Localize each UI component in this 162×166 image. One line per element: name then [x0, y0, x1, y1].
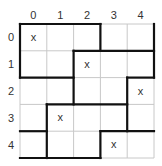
grid-cell-r1-c0[interactable]	[20, 51, 47, 78]
grid-cell-r3-c0[interactable]	[20, 104, 47, 131]
grid-cell-r2-c0[interactable]	[20, 78, 47, 105]
row-label: 0	[8, 31, 14, 43]
x-mark: x	[57, 111, 63, 123]
grid-cell-r1-c1[interactable]	[47, 51, 74, 78]
grid-cell-r4-c1[interactable]	[47, 131, 74, 158]
x-mark: x	[138, 85, 144, 97]
grid-cell-r4-c4[interactable]	[127, 131, 154, 158]
grid-cell-r0-c1[interactable]	[47, 24, 74, 51]
column-label: 2	[84, 9, 90, 21]
column-label: 1	[57, 9, 63, 21]
grid-cell-r1-c4[interactable]	[127, 51, 154, 78]
column-label: 3	[111, 9, 117, 21]
grid-cell-r2-c1[interactable]	[47, 78, 74, 105]
grid-cell-r3-c2[interactable]	[74, 104, 101, 131]
row-label: 4	[8, 139, 14, 151]
row-label: 2	[8, 85, 14, 97]
x-mark: x	[84, 58, 90, 70]
grid-cell-r4-c0[interactable]	[20, 131, 47, 158]
grid-cells	[20, 24, 154, 158]
grid-cell-r3-c3[interactable]	[100, 104, 127, 131]
grid-cell-r2-c3[interactable]	[100, 78, 127, 105]
x-mark: x	[111, 138, 117, 150]
row-label: 1	[8, 58, 14, 70]
column-labels: 01234	[30, 9, 143, 21]
grid-cell-r4-c2[interactable]	[74, 131, 101, 158]
column-label: 4	[138, 9, 144, 21]
column-label: 0	[30, 9, 36, 21]
row-labels: 01234	[8, 31, 14, 150]
x-mark: x	[31, 31, 37, 43]
grid-cell-r3-c4[interactable]	[127, 104, 154, 131]
grid-cell-r0-c4[interactable]	[127, 24, 154, 51]
grid-cell-r1-c3[interactable]	[100, 51, 127, 78]
grid-cell-r2-c2[interactable]	[74, 78, 101, 105]
grid-cell-r0-c3[interactable]	[100, 24, 127, 51]
row-label: 3	[8, 112, 14, 124]
puzzle-grid: 01234 01234 xxxxx	[0, 0, 162, 166]
grid-cell-r0-c2[interactable]	[74, 24, 101, 51]
